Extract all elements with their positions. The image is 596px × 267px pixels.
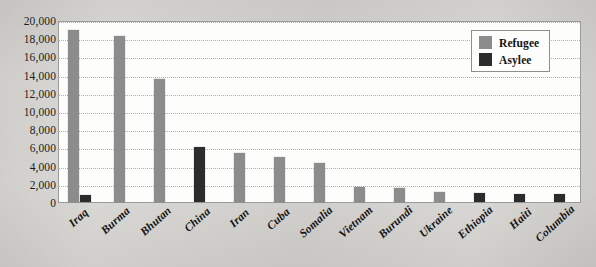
bar-group-iraq [59, 22, 99, 202]
bar-group-iran [219, 22, 259, 202]
y-axis-tick-label: 20,000 [2, 16, 56, 26]
x-axis-tick: Iraq [58, 205, 98, 267]
legend-label: Refugee [499, 37, 539, 49]
x-axis-tick-label: China [182, 205, 213, 234]
bar-asylee-china [194, 147, 205, 203]
legend-item-asylee: Asylee [479, 53, 539, 66]
x-axis-tick: Cuba [259, 205, 299, 267]
y-axis-tick-label: 12,000 [2, 89, 56, 99]
y-axis-tick-label: 2,000 [2, 180, 56, 190]
x-axis-tick: Ukraine [420, 205, 460, 267]
bar-chart: 20,00018,00016,00014,00012,00010,0008,00… [0, 0, 596, 267]
x-axis-tick-label: Burma [99, 204, 132, 236]
bar-asylee-iraq [80, 195, 91, 202]
bar-group-burundi [380, 22, 420, 202]
x-axis-tick: Ethiopia [460, 205, 500, 267]
bar-refugee-iraq [68, 30, 79, 202]
y-axis-tick-label: 0 [2, 198, 56, 208]
bar-refugee-bhutan [154, 79, 165, 202]
asylee-swatch [479, 53, 492, 66]
y-axis-tick-label: 6,000 [2, 143, 56, 153]
legend-item-refugee: Refugee [479, 36, 539, 49]
x-axis-labels: IraqBurmaBhutanChinaIranCubaSomaliaVietn… [58, 205, 581, 267]
bar-refugee-iran [234, 153, 245, 202]
y-axis-tick-label: 18,000 [2, 34, 56, 44]
bar-refugee-cuba [274, 157, 285, 202]
bar-group-ukraine [420, 22, 460, 202]
y-axis-tick-label: 14,000 [2, 71, 56, 81]
bar-group-burma [99, 22, 139, 202]
x-axis-tick: Somalia [299, 205, 339, 267]
x-axis-tick-label: Bhutan [137, 204, 173, 238]
bar-group-china [179, 22, 219, 202]
chart-legend: RefugeeAsylee [471, 30, 550, 72]
bar-refugee-ukraine [434, 192, 445, 202]
x-axis-tick: Burma [98, 205, 138, 267]
bar-refugee-burma [114, 36, 125, 202]
bar-asylee-columbia [554, 194, 565, 202]
x-axis-tick: Bhutan [138, 205, 178, 267]
bar-group-vietnam [340, 22, 380, 202]
x-axis-tick-label: Iran [227, 206, 251, 230]
x-axis-tick: Iran [219, 205, 259, 267]
bar-refugee-somalia [314, 163, 325, 202]
x-axis-tick-label: Ukraine [417, 204, 455, 240]
bar-asylee-haiti [514, 194, 525, 202]
bar-group-cuba [259, 22, 299, 202]
x-axis-tick-label: Iraq [66, 206, 90, 229]
x-axis-tick-label: Haiti [507, 205, 534, 231]
bar-refugee-burundi [394, 188, 405, 202]
refugee-swatch [479, 36, 492, 49]
bar-group-bhutan [139, 22, 179, 202]
x-axis-tick-label: Burundi [376, 203, 415, 240]
x-axis-tick-label: Vietnam [336, 204, 375, 240]
y-axis-tick-label: 16,000 [2, 52, 56, 62]
x-axis-tick: Burundi [380, 205, 420, 267]
x-axis-tick-label: Cuba [265, 205, 293, 232]
y-axis-tick-label: 8,000 [2, 125, 56, 135]
x-axis-tick: Vietnam [340, 205, 380, 267]
y-axis-tick-label: 10,000 [2, 107, 56, 117]
legend-label: Asylee [499, 54, 532, 66]
x-axis-tick-label: Ethiopia [456, 203, 496, 240]
y-axis: 20,00018,00016,00014,00012,00010,0008,00… [0, 0, 56, 267]
bar-group-somalia [299, 22, 339, 202]
x-axis-tick-label: Somalia [296, 204, 334, 240]
bar-asylee-ethiopia [474, 193, 485, 202]
y-axis-tick-label: 4,000 [2, 162, 56, 172]
bar-refugee-vietnam [354, 187, 365, 202]
x-axis-tick: Columbia [541, 205, 581, 267]
x-axis-tick: China [179, 205, 219, 267]
